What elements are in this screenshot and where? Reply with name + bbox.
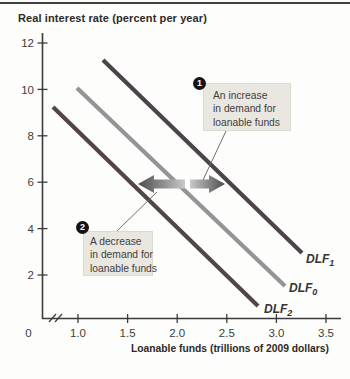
dlf2-curve-label: DLF2 xyxy=(264,302,292,318)
annotation-2-box: A decrease in demand for loanable funds xyxy=(83,231,153,276)
x-tick-3.5: 3.5 xyxy=(318,327,334,339)
dlf1-label-base: DLF xyxy=(306,252,329,266)
chart-canvas: 12 10 8 6 4 2 0 1.0 1.5 2.0 2.5 3.0 3.5 xyxy=(0,0,350,379)
annotation-2-line-1: A decrease xyxy=(90,235,152,248)
annotation-1-box: An increase in demand for loanable funds xyxy=(203,83,291,131)
y-tick-2: 2 xyxy=(28,269,34,281)
dlf2-label-sub: 2 xyxy=(287,308,292,318)
origin-label: 0 xyxy=(25,327,31,339)
annotation-2-leader-line xyxy=(117,192,157,231)
annotation-1-leader-line xyxy=(203,131,226,180)
annotation-1-line-2: in demand for xyxy=(213,102,290,115)
y-tick-10: 10 xyxy=(21,84,34,96)
x-tick-1.5: 1.5 xyxy=(120,327,136,339)
annotation-1-number-badge: 1 xyxy=(193,77,206,90)
x-axis-title: Loanable funds (trillions of 2009 dollar… xyxy=(131,343,329,354)
dlf0-label-sub: 0 xyxy=(312,287,317,297)
dlf0-curve-label: DLF0 xyxy=(289,281,317,297)
shift-left-arrow-icon xyxy=(138,175,185,193)
y-tick-labels: 12 10 8 6 4 2 xyxy=(21,37,34,281)
annotation-2-line-2: in demand for xyxy=(90,248,152,261)
y-tick-12: 12 xyxy=(21,37,34,49)
dlf1-curve-label: DLF1 xyxy=(306,252,334,268)
dlf1-label-sub: 1 xyxy=(329,258,334,268)
dlf2-curve xyxy=(53,107,258,306)
y-tick-6: 6 xyxy=(28,176,34,188)
shift-right-arrow-icon xyxy=(190,175,225,193)
x-tick-3.0: 3.0 xyxy=(268,327,284,339)
x-tick-1.0: 1.0 xyxy=(70,327,86,339)
dlf0-label-base: DLF xyxy=(289,281,312,295)
annotation-2-line-3: loanable funds xyxy=(90,262,152,275)
y-tick-8: 8 xyxy=(28,130,34,142)
x-tick-2.5: 2.5 xyxy=(219,327,235,339)
x-tick-labels: 0 1.0 1.5 2.0 2.5 3.0 3.5 xyxy=(25,327,334,339)
annotation-1-line-3: loanable funds xyxy=(213,116,290,129)
annotation-2-number-badge: 2 xyxy=(76,221,89,234)
y-tick-4: 4 xyxy=(28,223,35,235)
x-tick-2.0: 2.0 xyxy=(169,327,185,339)
loanable-funds-figure: Real interest rate (percent per year) xyxy=(0,0,350,379)
annotation-1-line-1: An increase xyxy=(213,89,290,102)
dlf2-label-base: DLF xyxy=(264,302,287,316)
